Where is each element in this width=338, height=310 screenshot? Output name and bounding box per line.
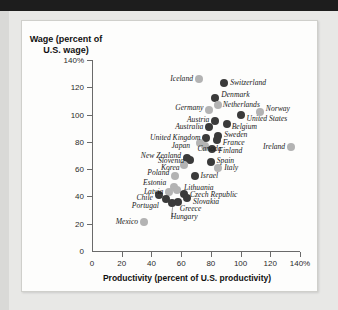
y-axis-title: Wage (percent of U.S. wage) [28, 34, 104, 56]
data-point-label: Switzerland [230, 79, 266, 87]
y-tick-label: 40 [75, 192, 84, 201]
x-tick-label: 20 [117, 259, 126, 268]
y-tick-mark [87, 115, 92, 116]
data-point-label: Italy [224, 164, 238, 172]
x-tick-mark [181, 252, 182, 257]
y-tick-mark [87, 142, 92, 143]
y-tick-mark [87, 60, 92, 61]
chart-card: Wage (percent of U.S. wage) Productivity… [21, 20, 318, 292]
x-tick-mark [241, 252, 242, 257]
x-tick-label: 60 [177, 259, 186, 268]
top-black-bar [0, 0, 338, 11]
data-point-marker[interactable] [223, 120, 231, 128]
y-tick-label: 60 [75, 165, 84, 174]
y-tick-mark [87, 224, 92, 225]
data-point-label: Norway [266, 105, 290, 113]
data-point-label: Netherlands [223, 101, 260, 109]
data-point-marker[interactable] [171, 172, 179, 180]
y-tick-label: 80 [75, 137, 84, 146]
y-tick-mark [87, 196, 92, 197]
data-point-marker[interactable] [191, 172, 199, 180]
y-tick-label: 0 [80, 247, 84, 256]
data-point-marker[interactable] [287, 143, 295, 151]
data-point-marker[interactable] [140, 218, 148, 226]
data-point-marker[interactable] [214, 101, 222, 109]
data-point-marker[interactable] [205, 106, 213, 114]
data-point-marker[interactable] [237, 111, 245, 119]
data-point-label: Poland [147, 169, 169, 177]
data-point-label: Estonia [143, 179, 166, 187]
data-point-label: Ireland [263, 143, 285, 151]
page-background: Wage (percent of U.S. wage) Productivity… [0, 0, 338, 310]
x-tick-mark [211, 252, 212, 257]
data-point-label: Hungary [171, 213, 198, 221]
x-tick-label: 120 [264, 259, 277, 268]
data-point-label: Finland [218, 147, 242, 155]
x-tick-label: 40 [147, 259, 156, 268]
x-tick-label: 0 [90, 259, 94, 268]
x-tick-mark [300, 252, 301, 257]
y-tick-mark [87, 87, 92, 88]
x-tick-label: 100 [234, 259, 247, 268]
x-tick-mark [122, 252, 123, 257]
data-point-label: Iceland [170, 75, 193, 83]
data-point-label: Germany [175, 104, 203, 112]
left-gutter [0, 11, 9, 310]
scatter-plot: Wage (percent of U.S. wage) Productivity… [22, 21, 317, 291]
y-tick-label: 100 [71, 110, 84, 119]
data-point-label: Portugal [132, 202, 159, 210]
y-tick-label: 140% [64, 56, 84, 65]
data-point-marker[interactable] [220, 79, 228, 87]
x-axis-line [92, 251, 300, 252]
data-point-label: Australia [175, 123, 203, 131]
x-tick-mark [151, 252, 152, 257]
x-axis-title: Productivity (percent of U.S. productivi… [62, 273, 312, 283]
data-point-marker[interactable] [168, 199, 176, 207]
y-axis-line [92, 60, 93, 252]
data-point-label: Israel [200, 172, 218, 180]
y-tick-label: 120 [71, 83, 84, 92]
x-tick-label: 140% [290, 259, 310, 268]
data-point-label: Denmark [221, 91, 249, 99]
y-tick-label: 20 [75, 219, 84, 228]
x-tick-label: 80 [206, 259, 215, 268]
x-tick-mark [270, 252, 271, 257]
data-point-marker[interactable] [195, 75, 203, 83]
data-point-label: Mexico [116, 218, 138, 226]
data-point-label: Japan [171, 142, 190, 150]
data-point-marker[interactable] [205, 123, 213, 131]
y-tick-mark [87, 169, 92, 170]
